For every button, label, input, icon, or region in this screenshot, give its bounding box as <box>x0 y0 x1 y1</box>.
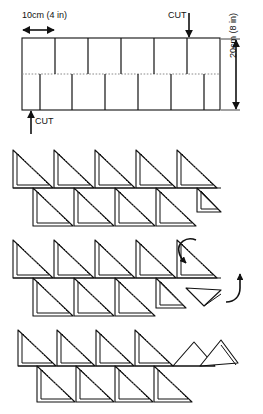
triangle-unit <box>33 278 73 316</box>
triangle-unit <box>33 188 73 226</box>
triangle-unit <box>136 150 176 188</box>
triangle-unit <box>156 278 186 308</box>
panel-folded-step-3 <box>18 330 238 402</box>
cut-bottom-label: CUT <box>35 116 54 126</box>
triangle-unit <box>13 240 53 278</box>
upper-triangle-row <box>13 240 217 278</box>
panel-folded-step-2 <box>13 239 240 316</box>
width-dimension-label: 10cm (4 in) <box>22 10 67 20</box>
triangle-unit <box>115 188 155 226</box>
triangle-unit <box>13 150 53 188</box>
cut-top-label: CUT <box>168 10 187 20</box>
triangle-unit <box>115 366 153 402</box>
triangle-unit <box>135 330 173 366</box>
triangle-unit <box>54 240 94 278</box>
lower-triangle-row <box>37 366 192 402</box>
folded-end-flap <box>173 340 238 366</box>
figure-drawing <box>0 0 263 414</box>
upper-triangle-row <box>13 150 217 188</box>
triangle-unit <box>54 150 94 188</box>
instruction-figure: 10cm (4 in) 20cm (8 in) CUT CUT <box>0 0 263 414</box>
panel-cut-template <box>22 13 240 134</box>
triangle-unit <box>74 278 114 316</box>
triangle-unit <box>37 366 75 402</box>
triangle-unit <box>95 240 135 278</box>
triangle-unit <box>156 188 196 226</box>
triangle-unit <box>74 188 114 226</box>
triangle-unit <box>57 330 95 366</box>
panel-folded-step-1 <box>13 150 221 226</box>
triangle-unit <box>197 188 221 212</box>
height-dimension-label: 20cm (8 in) <box>228 13 238 58</box>
triangle-unit <box>177 150 217 188</box>
triangle-unit <box>96 330 134 366</box>
lower-triangle-row <box>33 188 221 226</box>
upper-triangle-row <box>18 330 238 366</box>
triangle-unit <box>136 240 176 278</box>
triangle-unit <box>154 366 192 402</box>
fold-arrow-up-icon <box>226 274 240 302</box>
triangle-unit <box>76 366 114 402</box>
lower-triangle-row <box>33 278 221 316</box>
triangle-unit <box>18 330 56 366</box>
triangle-unit <box>115 278 155 316</box>
triangle-unit <box>95 150 135 188</box>
end-flap <box>186 288 221 306</box>
